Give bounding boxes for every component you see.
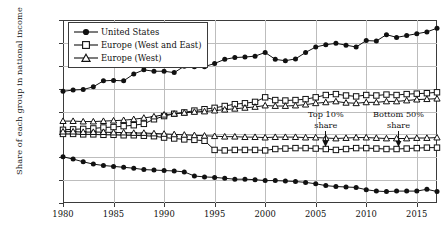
legend-item-united-states: United States: [73, 25, 201, 38]
x-tick-label: 1980: [43, 209, 83, 219]
x-tick-label: 2010: [346, 209, 386, 219]
x-tick-mark: [63, 203, 64, 207]
legend-item-europe-west: Europe (West): [73, 51, 201, 64]
x-tick-mark: [164, 203, 165, 207]
legend-label-europe-west-and-east: Europe (West and East): [99, 40, 201, 50]
chart-legend: United States Europe (West and East) Eur…: [68, 22, 208, 68]
x-tick-mark: [114, 203, 115, 207]
x-tick-mark: [316, 203, 317, 207]
annotation-line-1: Bottom 50%: [359, 109, 439, 120]
legend-label-europe-west: Europe (West): [99, 53, 162, 63]
annotation-arrow-icon: [321, 131, 330, 147]
legend-item-europe-west-and-east: Europe (West and East): [73, 38, 201, 51]
legend-label-united-states: United States: [99, 27, 159, 37]
x-tick-label: 1995: [195, 209, 235, 219]
legend-marker-filled-circle-icon: [73, 26, 99, 38]
annotation-line-2: share: [359, 120, 439, 131]
x-tick-label: 2000: [245, 209, 285, 219]
income-share-line-chart: Share of each group in national income 5…: [0, 0, 448, 238]
annotation-line-1: Top 10%: [286, 109, 366, 120]
legend-marker-open-square-icon: [73, 39, 99, 51]
x-tick-label: 1985: [94, 209, 134, 219]
x-tick-mark: [366, 203, 367, 207]
x-tick-label: 2005: [296, 209, 336, 219]
annotation-line-2: share: [286, 120, 366, 131]
series-united-states-bottom-50-share: [61, 154, 440, 194]
x-tick-label: 2015: [397, 209, 437, 219]
x-tick-label: 1990: [144, 209, 184, 219]
x-tick-mark: [417, 203, 418, 207]
series-europe-west-and-east--bottom-50-share: [60, 131, 439, 153]
annotation-top-10-: Top 10%share: [286, 109, 366, 131]
legend-marker-open-triangle-icon: [73, 52, 99, 64]
x-tick-mark: [265, 203, 266, 207]
x-tick-mark: [215, 203, 216, 207]
annotation-bottom-50-: Bottom 50%share: [359, 109, 439, 131]
y-axis-title: Share of each group in national income: [14, 0, 24, 186]
annotation-arrow-icon: [394, 131, 403, 147]
